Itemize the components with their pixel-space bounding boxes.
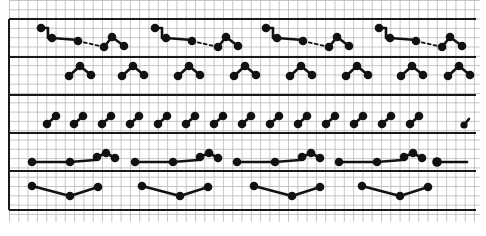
graph-paper-diagram [0, 0, 486, 236]
band-3-motifs [43, 112, 469, 129]
band-5-motifs [28, 182, 433, 201]
fine-grid [9, 0, 480, 222]
diagram-canvas [0, 0, 486, 236]
